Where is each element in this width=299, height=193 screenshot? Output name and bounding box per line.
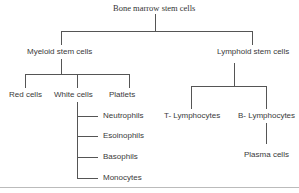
connector-line: [207, 31, 253, 32]
connector-line: [77, 157, 98, 158]
connector-line: [266, 123, 267, 144]
node-plasma-cells: Plasma cells: [244, 150, 289, 160]
connector-line: [234, 63, 235, 86]
connector-line: [61, 59, 62, 74]
connector-line: [191, 86, 267, 87]
node-lymphoid-stem-cells: Lymphoid stem cells: [217, 47, 289, 57]
connector-line: [252, 31, 253, 45]
connector-line: [77, 74, 78, 88]
bottom-divider: [0, 187, 299, 188]
node-basophils: Basophils: [103, 152, 138, 162]
node-b-lymphocytes: B- Lymphocytes: [238, 111, 295, 121]
connector-line: [77, 116, 98, 117]
node-monocytes: Monocytes: [103, 173, 142, 183]
connector-line: [77, 178, 98, 179]
connector-line: [191, 86, 192, 109]
node-eosinophils: Esoinophils: [103, 131, 144, 141]
node-myeloid-stem-cells: Myeloid stem cells: [27, 47, 92, 57]
node-neutrophils: Neutrophils: [103, 111, 143, 121]
node-t-lymphocytes: T- Lymphocytes: [164, 111, 220, 121]
connector-line: [25, 74, 26, 88]
connector-line: [155, 14, 156, 31]
node-bone-marrow-stem-cells: Bone marrow stem cells: [113, 3, 195, 13]
connector-line: [266, 86, 267, 109]
connector-line: [61, 31, 62, 45]
connector-line: [77, 102, 78, 178]
connector-line: [77, 136, 98, 137]
node-red-cells: Red cells: [9, 90, 42, 100]
node-white-cells: White cells: [54, 90, 93, 100]
connector-line: [129, 74, 130, 88]
node-platelets: Platlets: [109, 90, 135, 100]
connector-line: [61, 31, 207, 32]
